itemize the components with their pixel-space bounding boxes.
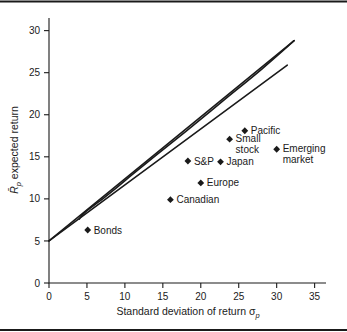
diamond-marker[interactable] [273,146,280,153]
data-point-label: Canadian [176,194,219,205]
data-point[interactable]: Japan [217,156,254,167]
data-point-label: Pacific [251,125,280,136]
data-point-label: Europe [207,177,240,188]
data-points: BondsCanadianEuropeS&PJapanSmallstockPac… [84,125,325,235]
x-axis-ticks: 05101520253035 [46,283,320,302]
y-axis-title: R̄p expected return [8,106,23,194]
diamond-marker[interactable] [217,158,224,165]
data-point-label: market [283,154,314,165]
x-tick-label: 0 [46,291,52,302]
y-tick-label: 0 [34,278,40,289]
diamond-marker[interactable] [226,136,233,143]
y-tick-label: 30 [29,25,41,36]
data-point[interactable]: S&P [184,156,214,167]
y-axis-ticks: 051015202530 [29,25,49,288]
x-tick-label: 20 [195,291,207,302]
data-point-label: S&P [194,156,214,167]
diamond-marker[interactable] [197,179,204,186]
x-axis-title: Standard deviation of return σp [116,305,259,320]
diamond-marker[interactable] [167,196,174,203]
svg-text:R̄p expected return: R̄p expected return [8,106,23,194]
y-tick-label: 15 [29,151,41,162]
data-point[interactable]: Bonds [84,225,122,236]
x-tick-label: 5 [84,291,90,302]
data-point[interactable]: Canadian [167,194,219,205]
x-tick-label: 10 [119,291,131,302]
diamond-marker[interactable] [84,227,91,234]
x-tick-label: 15 [157,291,169,302]
y-tick-label: 20 [29,109,41,120]
data-point-label: Emerging [283,143,326,154]
data-point-label: stock [236,144,260,155]
figure-panel: 05101520253035 051015202530 BondsCanadia… [0,0,347,332]
x-tick-label: 25 [233,291,245,302]
data-point[interactable]: Europe [197,177,239,188]
data-point[interactable]: Emergingmarket [273,143,325,165]
scatter-plot: 05101520253035 051015202530 BondsCanadia… [0,0,347,332]
svg-text:Standard deviation of return σ: Standard deviation of return σp [116,305,259,320]
data-point-label: Japan [227,156,254,167]
y-tick-label: 5 [34,236,40,247]
x-tick-label: 30 [271,291,283,302]
y-tick-label: 25 [29,67,41,78]
diamond-marker[interactable] [184,158,191,165]
data-point[interactable]: Smallstock [226,133,260,155]
x-tick-label: 35 [309,291,321,302]
data-point-label: Bonds [94,225,122,236]
y-tick-label: 10 [29,193,41,204]
